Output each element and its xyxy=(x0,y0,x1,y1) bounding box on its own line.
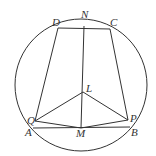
label-point-Q: Q xyxy=(27,114,35,126)
label-point-C: C xyxy=(110,16,118,28)
label-point-L: L xyxy=(85,82,92,94)
segments xyxy=(33,26,130,128)
geometry-diagram: DNCLQPAMB xyxy=(0,0,156,156)
label-point-A: A xyxy=(24,126,32,138)
label-point-P: P xyxy=(129,112,137,124)
label-point-N: N xyxy=(80,8,89,20)
segment-NM xyxy=(81,26,84,128)
label-point-D: D xyxy=(51,16,60,28)
label-point-M: M xyxy=(75,127,86,139)
segment-CP xyxy=(110,29,128,120)
segment-DQ xyxy=(35,28,58,121)
segment-QM xyxy=(35,121,81,128)
segment-LP xyxy=(83,92,128,120)
segment-LQ xyxy=(35,92,83,121)
label-point-B: B xyxy=(131,126,138,138)
